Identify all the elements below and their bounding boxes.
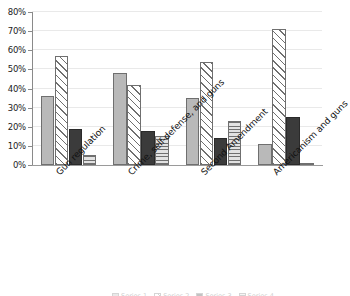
chart-legend: Series 1Series 2Series 3Series 4 [0,288,325,296]
x-axis-label: Second Amendment [199,106,270,177]
x-axis-label: Americanism and guns [271,98,350,177]
x-axis-label: Gun regulation [54,124,107,177]
legend-item: Series 2 [154,292,189,296]
legend-swatch [154,293,161,296]
legend-swatch [196,293,203,296]
legend-label: Series 4 [248,292,274,296]
legend-label: Series 1 [121,292,147,296]
legend-label: Series 3 [205,292,231,296]
legend-item: Series 1 [112,292,147,296]
legend-swatch [239,293,246,296]
legend-item: Series 4 [239,292,274,296]
legend-item: Series 3 [196,292,231,296]
legend-swatch [112,293,119,296]
legend-label: Series 2 [163,292,189,296]
